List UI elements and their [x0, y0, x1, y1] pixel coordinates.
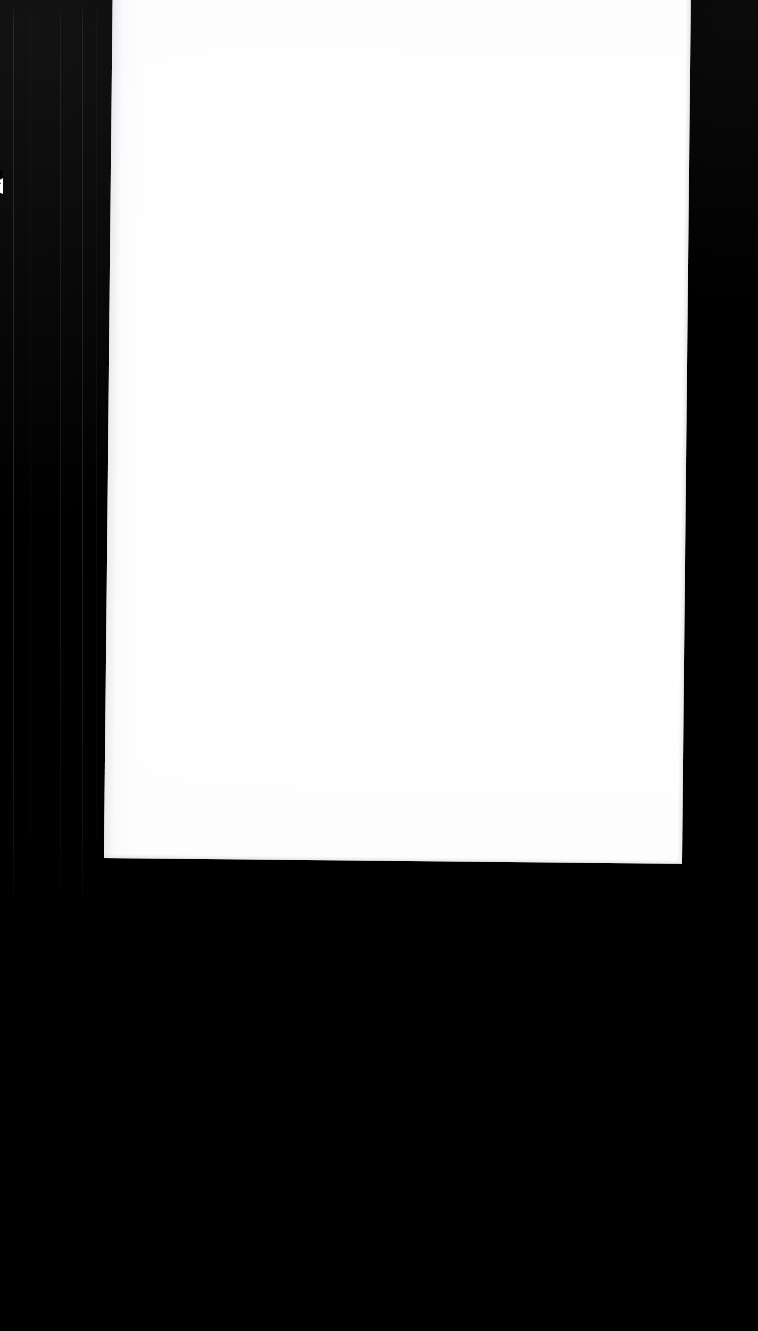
document-page[interactable] [104, 0, 691, 864]
screenshot-viewport [0, 0, 758, 1331]
page-content-area [104, 0, 691, 864]
